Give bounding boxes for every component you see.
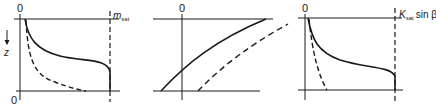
- z-axis-label: z: [3, 47, 9, 58]
- down-arrow-head-icon: [5, 40, 10, 45]
- left-solid-curve: [25, 19, 110, 91]
- right-solid-curve: [308, 18, 395, 90]
- panel-left: 0 0 z msat: [3, 2, 130, 106]
- right-origin-top-label: 0: [302, 2, 308, 14]
- panel-right: 0 Ksatsin β: [298, 2, 436, 102]
- middle-solid-curve: [161, 19, 266, 91]
- middle-origin-top-label: 0: [179, 2, 185, 14]
- middle-dashed-curve: [198, 24, 288, 91]
- right-dashed-curve: [309, 19, 327, 90]
- m-sat-label: msat: [113, 10, 130, 22]
- left-origin-bottom-label: 0: [11, 94, 17, 106]
- k-sat-sin-beta-label: Ksatsin β: [399, 9, 436, 21]
- left-origin-top-label: 0: [17, 2, 23, 14]
- panel-middle: 0: [153, 2, 288, 100]
- figure-canvas: 0 0 z msat 0 0 Ksatsin β: [0, 0, 436, 106]
